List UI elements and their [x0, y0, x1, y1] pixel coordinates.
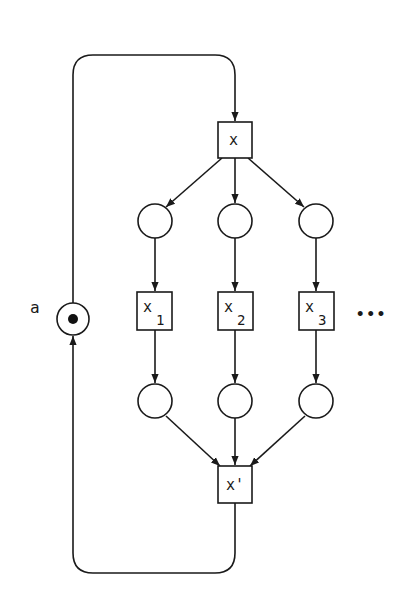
transition-x2-label: x: [224, 298, 233, 316]
transition-x2-subscript: 2: [237, 312, 245, 328]
transition-x1-label: x: [143, 298, 152, 316]
transition-x3-label: x: [305, 298, 314, 316]
transition-x2: x 2: [218, 292, 253, 330]
arc-x-to-p1: [166, 158, 222, 207]
place-p3: [299, 204, 333, 238]
arc-q3-to-xprime: [250, 416, 305, 466]
place-p1: [138, 204, 172, 238]
place-a-label: a: [30, 298, 40, 317]
arc-xprime-to-a: [73, 336, 235, 573]
arc-q1-to-xprime: [166, 416, 220, 466]
transition-xprime: x': [218, 466, 252, 503]
place-q1: [138, 384, 172, 418]
transition-x3-subscript: 3: [318, 312, 326, 328]
token-icon: [68, 314, 78, 324]
transition-x3: x 3: [299, 292, 334, 330]
place-q3: [299, 384, 333, 418]
transition-x: x: [218, 122, 252, 158]
petri-net-diagram: a x x 1 x 2 x 3 ••• x': [0, 0, 408, 597]
place-p2: [218, 204, 252, 238]
arc-x-to-p3: [248, 158, 304, 207]
arc-a-to-x: [73, 55, 235, 303]
transition-x1: x 1: [137, 292, 172, 330]
transition-xprime-label: x': [226, 476, 244, 494]
place-q2: [218, 384, 252, 418]
place-a: [57, 303, 89, 335]
transition-x-label: x: [229, 131, 238, 149]
ellipsis-more: •••: [356, 306, 387, 322]
transition-x1-subscript: 1: [156, 312, 164, 328]
